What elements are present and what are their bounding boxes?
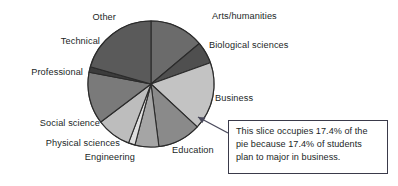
pie-label-arts-humanities: Arts/humanities	[212, 12, 277, 21]
pie-label-professional: Professional	[0, 68, 83, 77]
callout-text: This slice occupies 17.4% of the pie bec…	[236, 125, 381, 164]
callout-line-2: pie because 17.4% of students	[236, 139, 362, 149]
pie-label-biological-sciences: Biological sciences	[209, 41, 289, 50]
pie-label-engineering: Engineering	[35, 153, 135, 162]
pie-chart-figure: Arts/humanities Biological sciences Busi…	[0, 0, 398, 186]
pie-slice-group	[88, 21, 214, 147]
callout-box: This slice occupies 17.4% of the pie bec…	[228, 120, 388, 174]
callout-line-1: This slice occupies 17.4% of the	[236, 126, 368, 136]
pie-label-technical: Technical	[18, 37, 100, 46]
pie-label-physical-sciences: Physical sciences	[15, 139, 120, 148]
pie-label-other: Other	[50, 13, 116, 22]
pie-label-education: Education	[172, 146, 214, 155]
callout-line-3: plan to major in business.	[236, 152, 340, 162]
pie-label-business: Business	[215, 94, 253, 103]
pie-label-social-science: Social science	[10, 119, 100, 128]
callout-leader-line	[198, 117, 228, 133]
